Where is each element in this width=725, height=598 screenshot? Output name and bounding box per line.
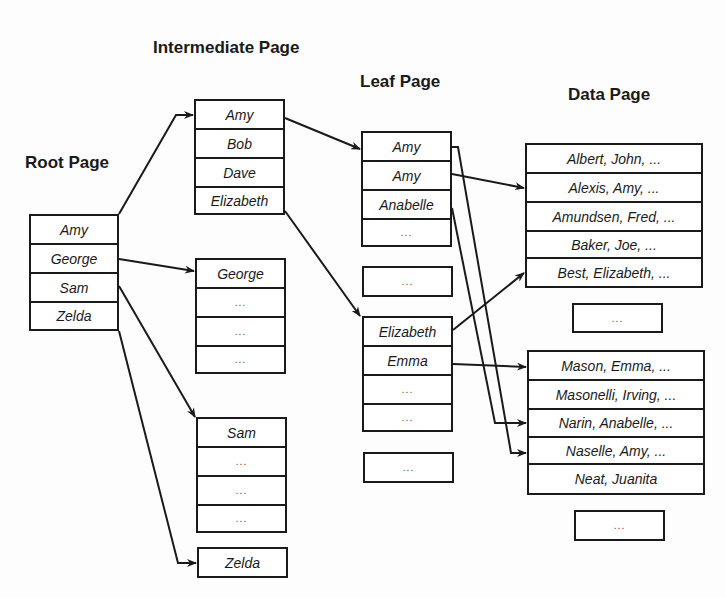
leaf-entry: Amy <box>363 133 450 162</box>
leaf-entry: ... <box>365 454 452 481</box>
arrow-intermediate-elizabeth <box>285 211 360 316</box>
intermediate-entry: Dave <box>196 159 283 188</box>
data-row: Narin, Anabelle, ... <box>529 410 703 438</box>
intermediate-entry: ... <box>197 347 284 372</box>
intermediate-entry: Elizabeth <box>196 188 283 213</box>
data-row: ... <box>574 305 661 331</box>
data-page-3: Mason, Emma, ... Masonelli, Irving, ... … <box>527 350 705 495</box>
leaf-entry: ... <box>364 268 451 295</box>
arrow-leaf-anabelle <box>452 208 526 423</box>
data-page-1: Albert, John, ... Alexis, Amy, ... Amund… <box>525 143 703 288</box>
arrow-root-sam <box>119 286 195 417</box>
intermediate-entry: George <box>197 260 284 289</box>
root-entry: George <box>31 245 117 274</box>
intermediate-entry: ... <box>197 318 284 347</box>
intermediate-entry: ... <box>198 448 285 477</box>
arrow-leaf-amy-1 <box>452 147 526 453</box>
intermediate-entry: Bob <box>196 130 283 159</box>
intermediate-page-1: Amy Bob Dave Elizabeth <box>194 99 285 215</box>
data-row: ... <box>576 512 663 539</box>
leaf-entry: Emma <box>364 347 451 376</box>
leaf-entry: ... <box>364 405 451 430</box>
arrow-intermediate-amy <box>285 118 360 149</box>
leaf-page-2: ... <box>362 266 453 297</box>
data-row: Neat, Juanita <box>529 465 703 493</box>
intermediate-entry: ... <box>198 506 285 531</box>
btree-index-diagram: Root Page Intermediate Page Leaf Page Da… <box>0 0 725 598</box>
data-row: Mason, Emma, ... <box>529 352 703 381</box>
intermediate-page-heading: Intermediate Page <box>153 38 299 58</box>
data-page-2: ... <box>572 303 663 333</box>
arrow-leaf-amy-2 <box>452 174 524 188</box>
root-page: Amy George Sam Zelda <box>29 214 119 331</box>
data-row: Alexis, Amy, ... <box>527 174 701 203</box>
data-page-heading: Data Page <box>568 85 650 105</box>
intermediate-entry: ... <box>197 289 284 318</box>
leaf-entry: ... <box>363 220 450 245</box>
leaf-entry: ... <box>364 376 451 405</box>
intermediate-entry: Amy <box>196 101 283 130</box>
leaf-page-1: Amy Amy Anabelle ... <box>361 131 452 247</box>
arrow-leaf-elizabeth <box>453 273 524 330</box>
root-entry: Amy <box>31 216 117 245</box>
leaf-page-3: Elizabeth Emma ... ... <box>362 316 453 432</box>
leaf-page-4: ... <box>363 452 454 483</box>
data-page-4: ... <box>574 510 665 541</box>
data-row: Baker, Joe, ... <box>527 232 701 259</box>
data-row: Best, Elizabeth, ... <box>527 259 701 286</box>
leaf-entry: Elizabeth <box>364 318 451 347</box>
arrow-leaf-emma <box>453 364 526 367</box>
leaf-entry: Anabelle <box>363 191 450 220</box>
intermediate-page-4: Zelda <box>197 547 288 578</box>
data-row: Masonelli, Irving, ... <box>529 381 703 410</box>
leaf-page-heading: Leaf Page <box>360 72 440 92</box>
intermediate-entry: Zelda <box>199 549 286 576</box>
arrow-root-zelda <box>119 331 196 563</box>
data-row: Albert, John, ... <box>527 145 701 174</box>
arrow-root-amy <box>119 115 193 214</box>
root-entry: Zelda <box>31 303 117 329</box>
intermediate-page-3: Sam ... ... ... <box>196 417 287 533</box>
data-row: Naselle, Amy, ... <box>529 438 703 465</box>
root-page-heading: Root Page <box>25 153 109 173</box>
intermediate-page-2: George ... ... ... <box>195 258 286 374</box>
intermediate-entry: ... <box>198 477 285 506</box>
leaf-entry: Amy <box>363 162 450 191</box>
data-row: Amundsen, Fred, ... <box>527 203 701 232</box>
arrow-root-george <box>119 259 194 271</box>
intermediate-entry: Sam <box>198 419 285 448</box>
root-entry: Sam <box>31 274 117 303</box>
